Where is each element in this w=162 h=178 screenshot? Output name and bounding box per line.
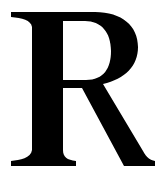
letter-r-icon bbox=[0, 0, 162, 178]
letter-r-glyph bbox=[0, 0, 162, 178]
